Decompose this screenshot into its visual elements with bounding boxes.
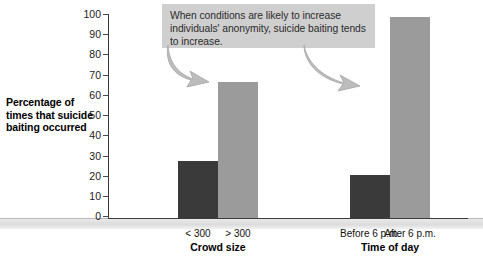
category-label: After 6 p.m.: [384, 228, 436, 239]
y-tick-mark: [103, 95, 108, 96]
y-tick-mark: [103, 115, 108, 116]
y-tick-mark: [103, 156, 108, 157]
y-tick-label: 10: [89, 190, 101, 202]
bar: [350, 175, 390, 217]
y-tick-mark: [103, 216, 108, 217]
y-tick-mark: [103, 54, 108, 55]
y-tick-mark: [103, 176, 108, 177]
y-axis-line: [108, 14, 109, 219]
y-tick-mark: [103, 135, 108, 136]
bar: [390, 17, 430, 217]
y-axis-title: Percentage of times that suicide baiting…: [6, 96, 101, 134]
y-tick-label: 70: [89, 69, 101, 81]
category-label: > 300: [225, 228, 250, 239]
y-tick-label: 30: [89, 150, 101, 162]
group-label: Crowd size: [190, 241, 245, 253]
y-tick-mark: [103, 75, 108, 76]
chart-figure: Percentage of times that suicide baiting…: [0, 0, 483, 260]
group-label: Time of day: [361, 241, 419, 253]
y-tick-mark: [103, 34, 108, 35]
y-tick-label: 80: [89, 48, 101, 60]
bar: [178, 161, 218, 218]
annotation-callout: When conditions are likely to increase i…: [162, 4, 375, 48]
y-tick-label: 50: [89, 109, 101, 121]
x-axis-line: [108, 218, 468, 219]
y-tick-label: 100: [83, 8, 101, 20]
y-tick-label: 40: [89, 129, 101, 141]
bar: [218, 82, 258, 217]
annotation-text: When conditions are likely to increase i…: [170, 9, 367, 49]
y-tick-label: 60: [89, 89, 101, 101]
y-tick-label: 90: [89, 28, 101, 40]
y-tick-label: 0: [95, 210, 101, 222]
y-tick-label: 20: [89, 170, 101, 182]
y-tick-mark: [103, 196, 108, 197]
y-tick-mark: [103, 14, 108, 15]
category-label: < 300: [185, 228, 210, 239]
